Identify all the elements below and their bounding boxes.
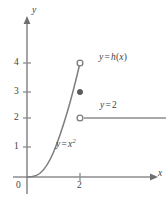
y-tick-label-4: 4 [14,58,19,68]
origin-label: 0 [16,181,21,191]
parabola-curve [27,63,80,177]
y-tick-label-1: 1 [14,142,19,152]
math-figure: y x 0 4 3 2 1 2 y=h(x) y=2 y=x2 [0,0,167,203]
function-label-constant-value: 2 [112,100,117,110]
open-point-2-2 [77,115,83,121]
y-axis-label: y [32,6,36,16]
y-tick-label-3: 3 [14,87,19,97]
function-label-h-eq: = [103,52,111,62]
function-label-parabola-exponent: 2 [72,137,75,144]
y-tick-label-2: 2 [14,113,19,123]
function-label-h-paren-close: ) [124,52,127,62]
x-axis-label: x [158,169,162,179]
x-axis-arrowhead [150,174,158,181]
figure-canvas [0,0,167,203]
filled-point-2-3 [77,89,82,94]
open-point-2-4 [77,60,83,66]
function-label-parabola: y=x2 [56,140,76,150]
function-label-constant-eq: = [104,100,112,110]
function-label-h: y=h(x) [99,53,127,63]
x-tick-label-2: 2 [77,181,82,191]
function-label-constant: y=2 [100,101,117,111]
y-axis-arrowhead [24,16,31,24]
function-label-parabola-eq: = [60,139,68,149]
